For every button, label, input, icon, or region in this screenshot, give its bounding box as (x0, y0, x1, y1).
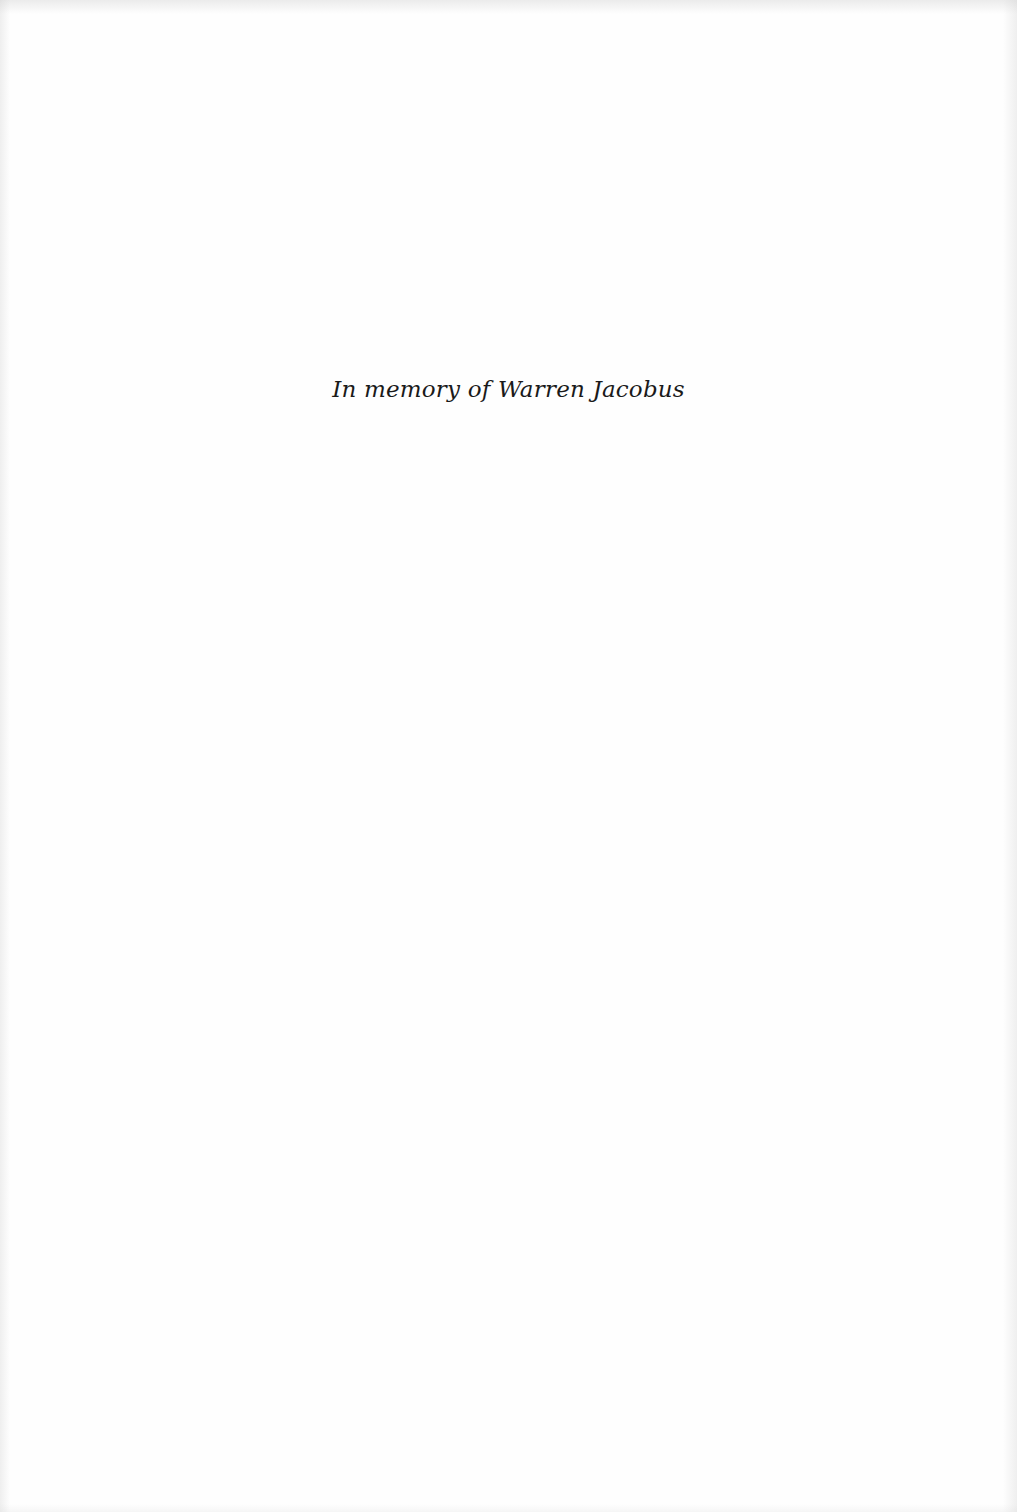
dedication-text: In memory of Warren Jacobus (0, 376, 1017, 402)
book-page: In memory of Warren Jacobus (0, 0, 1017, 1512)
